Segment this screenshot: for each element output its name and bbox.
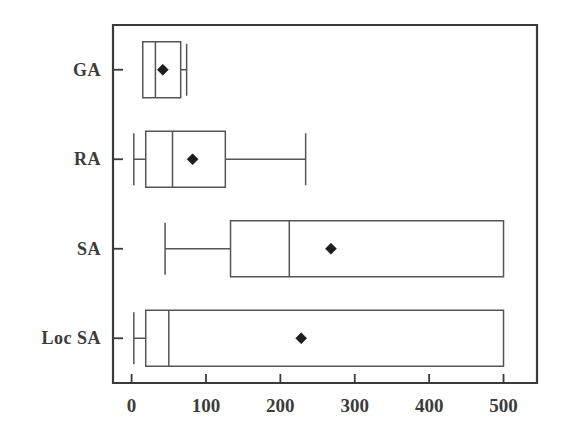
y-axis-ticks [113, 70, 123, 339]
y-axis-category-labels: GARASALoc SA [41, 60, 101, 349]
category-label-ga: GA [73, 60, 101, 80]
category-label-ra: RA [74, 149, 101, 169]
x-tick-label-200: 200 [266, 395, 295, 416]
box-rect [146, 310, 504, 366]
box-series [134, 42, 504, 367]
box-loc-sa [134, 310, 504, 366]
x-tick-label-400: 400 [415, 395, 444, 416]
category-label-loc-sa: Loc SA [41, 328, 101, 348]
x-tick-label-300: 300 [341, 395, 370, 416]
x-axis-ticks [132, 374, 504, 383]
box-rect [146, 131, 226, 187]
x-tick-label-100: 100 [192, 395, 221, 416]
box-rect [231, 221, 504, 277]
x-tick-label-500: 500 [489, 395, 518, 416]
chart-canvas: 0100200300400500 GARASALoc SA [0, 0, 566, 434]
box-ga [143, 42, 187, 98]
box-ra [134, 131, 306, 187]
category-label-sa: SA [77, 239, 101, 259]
box-plot-chart: 0100200300400500 GARASALoc SA [0, 0, 566, 434]
x-axis-tick-labels: 0100200300400500 [127, 395, 518, 416]
x-tick-label-0: 0 [127, 395, 137, 416]
box-sa [165, 221, 503, 277]
